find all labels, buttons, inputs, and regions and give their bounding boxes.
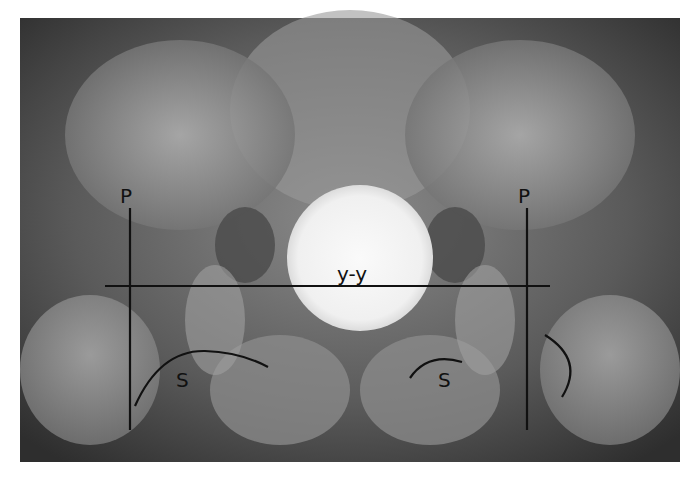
right-femur: [540, 295, 680, 445]
shenton-label-left: S: [176, 370, 189, 390]
shenton-label-right: S: [438, 370, 451, 390]
left-iliac-wing: [65, 40, 295, 230]
perkin-label-left: P: [120, 186, 132, 206]
pelvis-xray-image: [0, 0, 695, 477]
perkin-label-right: P: [518, 186, 530, 206]
hilgenreiner-label: y-y: [337, 264, 367, 284]
left-femur: [20, 295, 160, 445]
xray-figure: P P y-y S S: [0, 0, 695, 477]
gonad-shield: [287, 185, 433, 331]
